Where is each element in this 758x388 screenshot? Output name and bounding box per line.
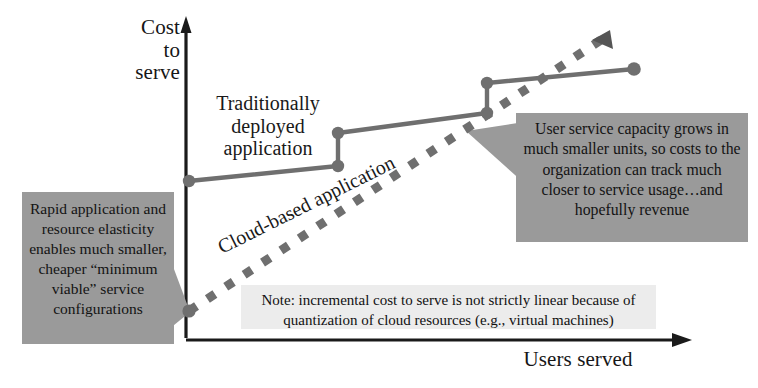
cost-to-serve-chart: Cost to serve Users served Traditionally…	[0, 0, 758, 388]
right-callout-box: User service capacity grows in much smal…	[516, 113, 748, 242]
x-axis	[186, 333, 692, 347]
note-box: Note: incremental cost to serve is not s…	[241, 285, 656, 329]
left-callout-box: Rapid application and resource elasticit…	[22, 192, 174, 344]
y-axis-label: Cost to serve	[96, 16, 180, 84]
note-line-2: quantization of cloud resources (e.g., v…	[241, 310, 656, 330]
x-axis-label: Users served	[478, 348, 678, 371]
note-line-1: Note: incremental cost to serve is not s…	[241, 290, 656, 310]
traditional-application-label: Traditionally deployed application	[182, 92, 354, 160]
